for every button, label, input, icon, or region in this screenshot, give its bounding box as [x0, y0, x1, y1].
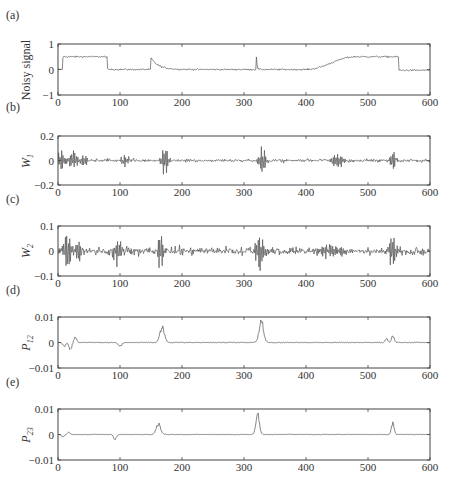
figure: (a) Noisy signal 0100200300400500600−101…	[0, 0, 462, 493]
y-tick-label: −0.01	[29, 362, 54, 374]
data-line	[58, 320, 430, 350]
x-tick-label: 500	[360, 96, 377, 108]
y-tick-label: −0.1	[34, 270, 54, 282]
svg-text:Noisy signal: Noisy signal	[19, 39, 33, 100]
data-line	[58, 413, 430, 440]
x-tick-label: 400	[298, 461, 315, 473]
x-tick-label: 500	[360, 186, 377, 198]
y-tick-label: 0.01	[35, 311, 54, 323]
panel-label-e: (e)	[6, 375, 19, 389]
data-line	[58, 147, 430, 175]
y-tick-label: 0.2	[40, 130, 54, 142]
y-axis-label-e: P23	[19, 427, 35, 443]
y-tick-label: 0.1	[40, 220, 54, 232]
x-tick-label: 600	[422, 461, 439, 473]
y-tick-label: 0	[49, 337, 55, 349]
svg-text:P12: P12	[19, 335, 35, 351]
svg-text:P23: P23	[19, 427, 35, 443]
x-tick-label: 500	[360, 277, 377, 289]
panel-label-d: (d)	[6, 283, 20, 297]
x-tick-label: 600	[422, 277, 439, 289]
x-tick-label: 200	[174, 96, 191, 108]
x-tick-label: 500	[360, 461, 377, 473]
svg-text:W2: W2	[19, 244, 35, 258]
y-tick-label: 0.01	[35, 403, 54, 415]
x-tick-label: 300	[236, 277, 253, 289]
panel-label-c: (c)	[6, 192, 19, 206]
x-tick-label: 100	[112, 96, 129, 108]
x-tick-label: 0	[55, 369, 61, 381]
x-tick-label: 400	[298, 277, 315, 289]
x-tick-label: 200	[174, 461, 191, 473]
panel-b: (b) W1 0100200300400500600−0.200.2	[6, 100, 439, 198]
x-tick-label: 200	[174, 369, 191, 381]
x-tick-label: 0	[55, 461, 61, 473]
x-tick-label: 100	[112, 461, 129, 473]
svg-text:W1: W1	[19, 154, 35, 168]
y-tick-label: −0.2	[34, 179, 54, 191]
y-tick-label: 0	[49, 245, 55, 257]
x-tick-label: 600	[422, 186, 439, 198]
x-tick-label: 100	[112, 186, 129, 198]
plot-area-e: 0100200300400500600−0.0100.01	[29, 403, 439, 473]
y-tick-label: −0.01	[29, 454, 54, 466]
plot-area-c: 0100200300400500600−0.100.1	[34, 220, 439, 289]
x-tick-label: 200	[174, 277, 191, 289]
x-tick-label: 300	[236, 186, 253, 198]
y-axis-label-c: W2	[19, 244, 35, 258]
x-tick-label: 300	[236, 461, 253, 473]
plot-area-b: 0100200300400500600−0.200.2	[34, 130, 439, 198]
y-tick-label: 0	[49, 64, 55, 76]
x-tick-label: 0	[55, 186, 61, 198]
y-tick-label: −1	[42, 89, 54, 101]
x-tick-label: 0	[55, 96, 61, 108]
x-tick-label: 0	[55, 277, 61, 289]
plot-area-d: 0100200300400500600−0.0100.01	[29, 311, 439, 381]
plot-area-a: 0100200300400500600−101	[42, 38, 438, 108]
x-tick-label: 200	[174, 186, 191, 198]
panel-e: (e) P23 0100200300400500600−0.0100.01	[6, 375, 439, 473]
y-tick-label: 1	[49, 38, 55, 50]
panel-label-a: (a)	[6, 8, 19, 22]
panel-label-b: (b)	[6, 100, 20, 114]
x-tick-label: 400	[298, 186, 315, 198]
x-tick-label: 400	[298, 96, 315, 108]
y-tick-label: 0	[49, 429, 55, 441]
x-tick-label: 500	[360, 369, 377, 381]
y-axis-label-d: P12	[19, 335, 35, 351]
panel-a: (a) Noisy signal 0100200300400500600−101	[6, 8, 439, 108]
x-tick-label: 400	[298, 369, 315, 381]
y-axis-label-b: W1	[19, 154, 35, 168]
x-tick-label: 100	[112, 277, 129, 289]
x-tick-label: 300	[236, 96, 253, 108]
x-tick-label: 100	[112, 369, 129, 381]
panel-c: (c) W2 0100200300400500600−0.100.1	[6, 192, 439, 289]
x-tick-label: 300	[236, 369, 253, 381]
panel-d: (d) P12 0100200300400500600−0.0100.01	[6, 283, 439, 381]
data-line	[58, 56, 430, 71]
x-tick-label: 600	[422, 96, 439, 108]
y-axis-label-a: Noisy signal	[19, 39, 33, 100]
data-line	[58, 236, 430, 271]
y-tick-label: 0	[49, 155, 55, 167]
x-tick-label: 600	[422, 369, 439, 381]
